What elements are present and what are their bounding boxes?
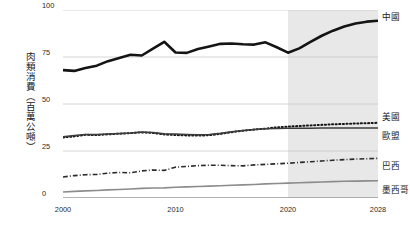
y-tick-label: 25 (42, 142, 50, 151)
plot-area (63, 10, 378, 198)
y-tick-label: 50 (42, 95, 50, 104)
y-tick-label: 100 (42, 1, 54, 10)
x-tick-label: 2028 (370, 205, 386, 214)
plot-svg (63, 10, 378, 198)
series-label-1: 美國 (382, 110, 400, 122)
series-label-0: 中國 (382, 10, 400, 22)
y-tick-label: 75 (42, 48, 50, 57)
x-tick-label: 2010 (167, 205, 183, 214)
series-label-3: 巴西 (382, 159, 400, 171)
series-label-4: 墨西哥 (382, 183, 410, 195)
y-axis-title: 肉類消費（百萬公噸） (14, 52, 36, 152)
x-tick-label: 2020 (280, 205, 296, 214)
series-label-2: 歐盟 (382, 129, 400, 141)
x-tick-label: 2000 (55, 205, 71, 214)
y-tick-label: 0 (42, 189, 46, 198)
